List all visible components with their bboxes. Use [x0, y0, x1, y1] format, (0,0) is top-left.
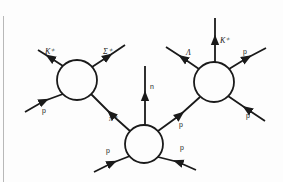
label-p-mid-out: p — [179, 121, 183, 129]
label-pi-plus: π⁺ — [109, 114, 118, 123]
label-p-right-out: p — [243, 48, 247, 56]
label-p-mid-in: p — [106, 147, 110, 155]
label-k-plus-right: K⁺ — [219, 36, 230, 45]
p-right-out-line — [229, 48, 266, 69]
label-n: n — [150, 83, 154, 90]
label-lambda: Λ — [185, 48, 191, 57]
lambda-line — [166, 47, 199, 69]
p-mid-in-line — [94, 156, 130, 172]
label-p-left: p — [42, 107, 46, 115]
pi-plus-line — [91, 94, 130, 131]
label-p-right-in: p — [246, 112, 250, 120]
label-k-plus-left: K⁺ — [44, 47, 55, 56]
middle-vertex-circle — [125, 125, 163, 163]
label-p-mid-in-right: p — [180, 144, 184, 152]
p-mid-in-right-line — [158, 157, 196, 170]
label-sigma-plus: Σ⁺ — [102, 47, 113, 56]
diagram-frame: K⁺ Σ⁺ p π⁺ n p p Λ K⁺ p p p — [0, 0, 283, 182]
interaction-diagram: K⁺ Σ⁺ p π⁺ n p p Λ K⁺ p p p — [0, 0, 283, 182]
